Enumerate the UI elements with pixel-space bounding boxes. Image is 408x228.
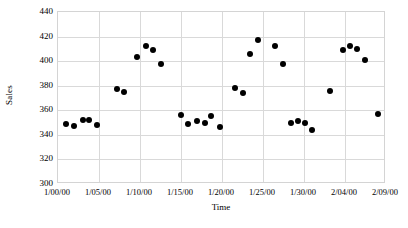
x-axis-title-label: Time (212, 202, 231, 212)
gridline-horizontal (58, 110, 384, 111)
x-axis-tick-label: 1/20/00 (208, 186, 234, 198)
data-point (86, 117, 92, 123)
x-axis-tick-label: 1/30/00 (290, 186, 316, 198)
data-point (158, 61, 164, 67)
data-point (327, 88, 333, 94)
y-axis-tick-label: 380 (5, 80, 57, 89)
x-axis-title: Time (57, 202, 385, 212)
data-point (63, 121, 69, 127)
data-point (121, 89, 127, 95)
x-axis-tick-label: 2/04/00 (331, 186, 357, 198)
x-axis-tick-label: 1/10/00 (126, 186, 152, 198)
data-point (354, 46, 360, 52)
data-point (194, 118, 200, 124)
data-point (178, 112, 184, 118)
data-point (202, 120, 208, 126)
data-point (232, 85, 238, 91)
y-axis-tick-label: 440 (5, 7, 57, 16)
y-axis-tick-labels: 440420400380360340320300 (0, 11, 57, 183)
gridline-horizontal (58, 61, 384, 62)
gridline-horizontal (58, 135, 384, 136)
y-axis-tick-label: 400 (5, 56, 57, 65)
gridline-horizontal (58, 37, 384, 38)
data-point (71, 123, 77, 129)
y-axis-tick-label: 340 (5, 129, 57, 138)
data-point (309, 127, 315, 133)
data-point (302, 120, 308, 126)
x-axis-tick-label: 1/25/00 (249, 186, 275, 198)
data-point (280, 61, 286, 67)
data-point (375, 111, 381, 117)
data-point (143, 43, 149, 49)
y-axis-tick-label: 360 (5, 105, 57, 114)
gridline-vertical (263, 12, 264, 182)
data-point (347, 43, 353, 49)
data-point (185, 121, 191, 127)
x-axis-tick-label: 1/05/00 (85, 186, 111, 198)
gridline-vertical (99, 12, 100, 182)
x-axis-tick-label: 1/15/00 (167, 186, 193, 198)
y-axis-tick-label: 420 (5, 31, 57, 40)
data-point (80, 117, 86, 123)
data-point (240, 90, 246, 96)
x-axis-tick-labels: 1/00/001/05/001/10/001/15/001/20/001/25/… (57, 186, 385, 200)
x-axis-tick-label: 2/09/00 (372, 186, 398, 198)
gridline-vertical (140, 12, 141, 182)
data-point (150, 47, 156, 53)
data-point (362, 57, 368, 63)
gridline-horizontal (58, 86, 384, 87)
data-point (134, 54, 140, 60)
plot-area (57, 11, 385, 183)
data-point (247, 51, 253, 57)
data-point (255, 37, 261, 43)
scatter-chart: Sales 440420400380360340320300 1/00/001/… (0, 0, 408, 228)
data-point (272, 43, 278, 49)
gridline-vertical (304, 12, 305, 182)
gridline-vertical (345, 12, 346, 182)
data-point (114, 86, 120, 92)
gridline-vertical (222, 12, 223, 182)
data-point (288, 120, 294, 126)
x-axis-tick-label: 1/00/00 (44, 186, 70, 198)
data-point (295, 118, 301, 124)
gridline-vertical (181, 12, 182, 182)
y-axis-tick-label: 320 (5, 154, 57, 163)
gridline-horizontal (58, 159, 384, 160)
data-point (208, 113, 214, 119)
